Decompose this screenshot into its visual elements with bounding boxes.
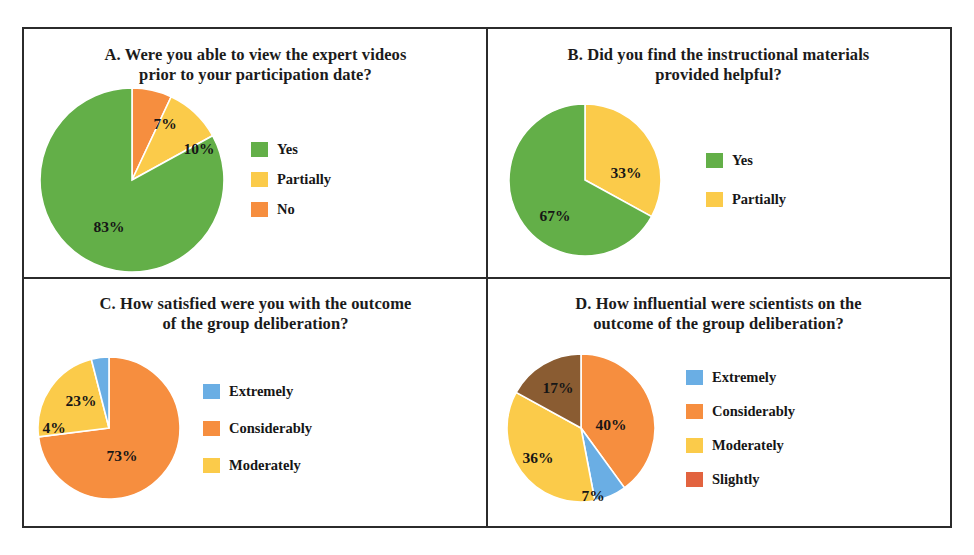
legend-swatch-icon	[203, 458, 220, 473]
legend-swatch-icon	[686, 472, 703, 487]
legend-swatch-icon	[686, 370, 703, 385]
panel-d-legend: ExtremelyConsiderablyModeratelySlightly	[686, 369, 795, 488]
legend-label: Considerably	[712, 403, 795, 420]
legend-label: No	[277, 201, 295, 218]
legend-label: Extremely	[229, 383, 293, 400]
panel-d-pie-svg	[506, 353, 656, 503]
legend-swatch-icon	[203, 384, 220, 399]
legend-swatch-icon	[251, 142, 268, 157]
panel-c: C. How satisfied were you with the outco…	[24, 278, 487, 527]
legend-item-extremely: Extremely	[203, 383, 312, 400]
panel-d: D. How influential were scientists on th…	[487, 278, 950, 527]
legend-label: Partially	[732, 191, 786, 208]
panel-a-pie: 7%10%83%	[39, 87, 225, 273]
legend-item-yes: Yes	[251, 141, 331, 158]
panel-b-title: B. Did you find the instructional materi…	[554, 45, 884, 86]
legend-item-considerably: Considerably	[686, 403, 795, 420]
panel-a-pie-svg	[39, 87, 225, 273]
panel-d-pie: 40%7%36%17%	[506, 353, 656, 503]
legend-item-moderately: Moderately	[686, 437, 795, 454]
legend-item-yes: Yes	[706, 152, 786, 169]
legend-item-moderately: Moderately	[203, 457, 312, 474]
legend-label: Considerably	[229, 420, 312, 437]
legend-label: Yes	[277, 141, 298, 158]
panel-c-body: 73%23%4% ExtremelyConsiderablyModerately	[23, 334, 488, 522]
panel-b-body: 33%67% YesPartially	[478, 86, 959, 274]
legend-item-partially: Partially	[706, 191, 786, 208]
panel-b-pie: 33%67%	[508, 103, 662, 257]
legend-item-slightly: Slightly	[686, 471, 795, 488]
legend-swatch-icon	[686, 438, 703, 453]
legend-item-extremely: Extremely	[686, 369, 795, 386]
figure-frame: A. Were you able to view the expert vide…	[22, 27, 952, 528]
legend-swatch-icon	[251, 172, 268, 187]
legend-label: Moderately	[229, 457, 301, 474]
legend-swatch-icon	[706, 192, 723, 207]
legend-label: Partially	[277, 171, 331, 188]
legend-item-partially: Partially	[251, 171, 331, 188]
legend-swatch-icon	[251, 202, 268, 217]
panel-c-legend: ExtremelyConsiderablyModerately	[203, 383, 312, 474]
legend-swatch-icon	[686, 404, 703, 419]
legend-item-considerably: Considerably	[203, 420, 312, 437]
legend-label: Moderately	[712, 437, 784, 454]
panel-b-legend: YesPartially	[706, 152, 786, 208]
panel-d-body: 40%7%36%17% ExtremelyConsiderablyModerat…	[480, 334, 957, 522]
panel-a: A. Were you able to view the expert vide…	[24, 29, 487, 278]
legend-label: Yes	[732, 152, 753, 169]
legend-swatch-icon	[203, 421, 220, 436]
panel-a-body: 7%10%83% YesPartiallyNo	[21, 86, 490, 274]
panel-divider-horizontal	[24, 277, 950, 279]
legend-label: Slightly	[712, 471, 760, 488]
panel-b-pie-svg	[508, 103, 662, 257]
panel-c-pie: 73%23%4%	[37, 356, 181, 500]
panel-c-title: C. How satisfied were you with the outco…	[91, 294, 421, 335]
panel-d-title: D. How influential were scientists on th…	[554, 294, 884, 335]
legend-swatch-icon	[706, 153, 723, 168]
panel-c-pie-svg	[37, 356, 181, 500]
panel-b: B. Did you find the instructional materi…	[487, 29, 950, 278]
panel-a-title: A. Were you able to view the expert vide…	[91, 45, 421, 86]
panel-a-legend: YesPartiallyNo	[251, 141, 331, 218]
legend-item-no: No	[251, 201, 331, 218]
legend-label: Extremely	[712, 369, 776, 386]
